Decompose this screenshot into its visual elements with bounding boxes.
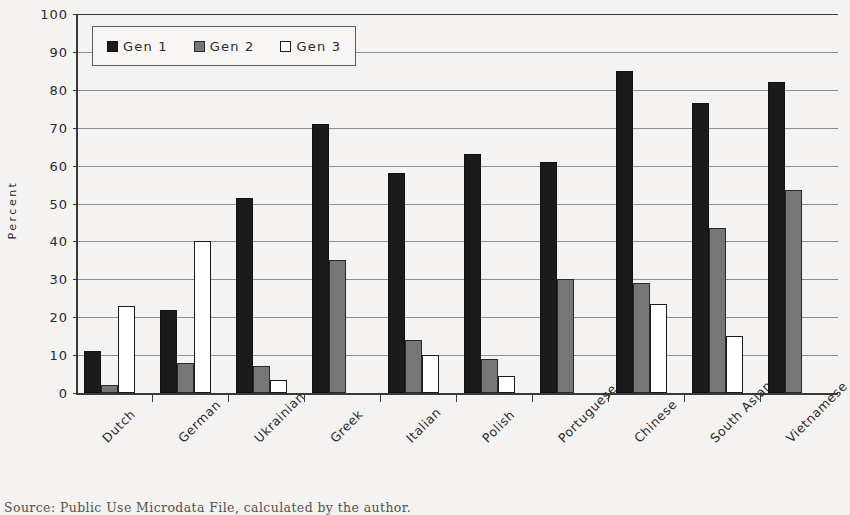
bar-gen-1 [616,71,633,393]
bar-gen-2 [329,260,346,393]
bar-gen-1 [160,310,177,393]
bar-gen-3 [270,380,287,393]
bars-layer [78,14,838,393]
legend-entry: Gen 3 [280,39,341,54]
y-axis-tick-mark [73,355,78,356]
bar-gen-2 [177,363,194,393]
y-axis-tick-mark [73,52,78,53]
y-axis-tick-mark [73,90,78,91]
plot-area [76,14,838,395]
y-axis-tick-mark [73,204,78,205]
legend-swatch-icon [107,41,118,52]
y-axis-tick-label: 60 [24,158,68,173]
x-axis-category-label: Polish [479,407,518,446]
bar-gen-3 [650,304,667,393]
legend-swatch-icon [194,41,205,52]
y-axis-tick-mark [73,279,78,280]
x-axis-category-label: Dutch [99,407,138,446]
y-axis-tick-labels: 1009080706050403020100 [24,0,68,400]
y-axis-tick-label: 40 [24,234,68,249]
y-axis-tick-mark [73,128,78,129]
bar-gen-2 [785,190,802,393]
x-axis-category-label: German [175,398,224,447]
bar-group [382,14,458,393]
bar-gen-1 [540,162,557,393]
bar-gen-1 [768,82,785,393]
bar-group [458,14,534,393]
bar-group [230,14,306,393]
y-axis-tick-label: 20 [24,310,68,325]
bar-group [534,14,610,393]
y-axis-tick-mark [73,317,78,318]
bar-gen-3 [498,376,515,393]
legend-entry: Gen 2 [194,39,255,54]
bar-gen-1 [84,351,101,393]
chart-legend: Gen 1Gen 2Gen 3 [92,26,356,66]
legend-label: Gen 2 [210,39,255,54]
bar-group [686,14,762,393]
y-axis-tick-mark [73,241,78,242]
bar-gen-2 [253,366,270,393]
source-note: Source: Public Use Microdata File, calcu… [4,500,834,515]
bar-gen-2 [481,359,498,393]
y-axis-tick-mark [73,166,78,167]
y-axis-tick-label: 100 [24,7,68,22]
y-axis-title: Percent [6,150,19,270]
bar-gen-2 [709,228,726,393]
y-axis-tick-label: 80 [24,82,68,97]
y-axis-tick-mark [73,393,78,394]
bar-group [306,14,382,393]
bar-gen-1 [692,103,709,393]
bar-group [762,14,838,393]
bar-gen-3 [118,306,135,393]
bar-gen-2 [405,340,422,393]
y-axis-tick-mark [73,14,78,15]
bar-gen-1 [312,124,329,393]
bar-gen-1 [464,154,481,393]
bar-gen-3 [726,336,743,393]
bar-gen-2 [101,385,118,393]
x-axis-category-label: Greek [327,407,366,446]
y-axis-tick-label: 10 [24,348,68,363]
y-axis-tick-label: 0 [24,386,68,401]
legend-swatch-icon [280,41,291,52]
bar-group [610,14,686,393]
bar-group [154,14,230,393]
y-axis-tick-label: 50 [24,196,68,211]
legend-label: Gen 1 [123,39,168,54]
x-axis-category-label: Chinese [631,397,680,446]
bar-gen-3 [194,241,211,393]
legend-label: Gen 3 [296,39,341,54]
bar-group [78,14,154,393]
x-axis-category-label: Italian [403,405,444,446]
y-axis-tick-label: 30 [24,272,68,287]
bar-gen-1 [236,198,253,393]
bar-gen-2 [557,279,574,393]
bar-gen-1 [388,173,405,393]
bar-gen-3 [422,355,439,393]
legend-entry: Gen 1 [107,39,168,54]
y-axis-tick-label: 70 [24,120,68,135]
bar-gen-2 [633,283,650,393]
y-axis-tick-label: 90 [24,44,68,59]
x-axis-category-labels: DutchGermanUkrainianGreekItalianPolishPo… [76,399,836,479]
